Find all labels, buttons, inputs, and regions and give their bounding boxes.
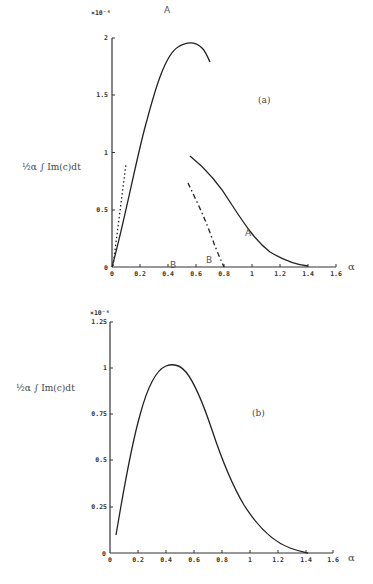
panel-a-ytick-label: 1.5 — [96, 91, 108, 99]
panel-b-ytick-label: 0 — [102, 550, 106, 558]
panel-b-scale-label: ×10⁻⁴ — [90, 309, 110, 317]
panel-a-curve-A-left — [112, 43, 210, 267]
panel-b-ytick-label: 0.75 — [91, 410, 107, 418]
panel-a-curve-label-B: B — [170, 260, 176, 270]
panel-a-xtick-label: 1 — [250, 270, 254, 278]
panel-a-curve-label-B: B — [206, 255, 212, 265]
panel-b-xtick-label: 0.6 — [188, 556, 200, 564]
panel-a-curve-label-A: A — [245, 228, 252, 238]
panel-a-xtick-label: 0.2 — [134, 270, 146, 278]
panel-b-xtick-label: 0.4 — [160, 556, 172, 564]
figure: ×10⁻⁴ 2 1.5 1 0.5 0 0 0.2 — [0, 0, 373, 584]
panel-a-xtick-label: 0 — [110, 270, 114, 278]
panel-a-xtick-label: 0.8 — [218, 270, 230, 278]
panel-b-xtick-label: 1.2 — [272, 556, 284, 564]
panel-a-x-axis-symbol: α — [348, 261, 355, 272]
panel-b-ytick-label: 1 — [103, 364, 107, 372]
panel-a-xtick-label: 0.4 — [162, 270, 174, 278]
panel-a-ytick-label: 1 — [104, 149, 108, 157]
panel-a-dotted-line — [113, 164, 126, 266]
panel-b-label: (b) — [252, 408, 265, 418]
panel-b-xtick-label: 1 — [248, 556, 252, 564]
panel-a-xtick-label: 0.6 — [190, 270, 202, 278]
panel-a-curve-A-right — [190, 156, 308, 266]
panel-b-curve — [116, 365, 308, 553]
panel-b-ytick-label: 1.25 — [91, 318, 107, 326]
panel-b-ytick-label: 0.5 — [95, 456, 107, 464]
panel-a-label: (a) — [258, 95, 270, 105]
panel-b-xtick-label: 0.2 — [132, 556, 144, 564]
panel-b-xtick-label: 0 — [108, 556, 112, 564]
panel-a-xtick-label: 1.6 — [330, 270, 342, 278]
panel-a: ×10⁻⁴ 2 1.5 1 0.5 0 0 0.2 — [91, 5, 355, 278]
panel-b: ×10⁻⁴ 1.25 1 0.75 0.5 0.25 0 — [90, 309, 355, 564]
panel-b-ytick-label: 0.25 — [91, 503, 107, 511]
panel-b-xtick-label: 1.4 — [300, 556, 312, 564]
panel-a-scale-label: ×10⁻⁴ — [91, 9, 111, 17]
panel-a-ytick-label: 2 — [104, 34, 108, 42]
panel-a-ytick-label: 0 — [104, 264, 108, 272]
panel-a-xtick-label: 1.2 — [274, 270, 286, 278]
panel-b-xtick-label: 1.6 — [327, 556, 339, 564]
panel-b-x-axis-symbol: α — [348, 552, 355, 563]
panel-a-xtick-label: 1.4 — [302, 270, 314, 278]
panel-b-xtick-label: 0.8 — [216, 556, 228, 564]
panel-a-curve-label-A: A — [164, 5, 171, 15]
panel-a-ytick-label: 0.5 — [96, 206, 108, 214]
